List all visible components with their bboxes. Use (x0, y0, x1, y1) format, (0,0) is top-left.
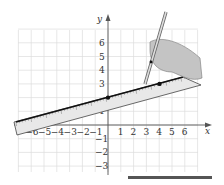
y-tick-label: 4 (99, 65, 105, 75)
x-tick-label: 2 (131, 127, 137, 137)
y-tick-label: 6 (99, 38, 105, 48)
x-tick-label: 3 (143, 127, 149, 137)
x-tick-label: 6 (182, 127, 188, 137)
bottom-bar (128, 176, 212, 179)
coordinate-diagram: y x −6−5−4−3−2−1123456 65431−1−2−3 (0, 0, 224, 185)
graph-svg: y x −6−5−4−3−2−1123456 65431−1−2−3 (0, 0, 224, 185)
y-tick-label: 3 (99, 79, 105, 89)
y-tick-label: 5 (99, 52, 105, 62)
x-tick-label: −3 (64, 127, 78, 137)
point-0-2 (106, 95, 110, 99)
x-tick-label: 5 (169, 127, 175, 137)
x-tick-label: 1 (118, 127, 124, 137)
x-tick-label: −4 (51, 127, 65, 137)
x-tick-label: 4 (156, 127, 162, 137)
x-axis-label: x (205, 126, 210, 136)
y-tick-label: −3 (95, 161, 109, 171)
point-4-3 (157, 82, 161, 86)
y-tick-label: −2 (95, 147, 108, 157)
y-axis-label: y (96, 14, 103, 24)
hand-with-pencil (145, 12, 202, 84)
x-tick-label: −2 (76, 127, 89, 137)
y-tick-label: −1 (95, 134, 108, 144)
